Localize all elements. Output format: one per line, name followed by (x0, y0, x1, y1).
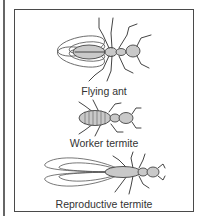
worker-termite-icon (15, 98, 193, 138)
worker-termite-figure: Worker termite (15, 98, 193, 150)
reproductive-termite-figure: Reproductive termite (15, 148, 193, 210)
reproductive-termite-icon (15, 148, 193, 198)
reproductive-termite-label: Reproductive termite (15, 198, 193, 210)
insect-comparison-panel: Flying ant Worker term (14, 9, 194, 212)
flying-ant-figure: Flying ant (15, 13, 193, 99)
side-rule (3, 0, 5, 216)
flying-ant-label: Flying ant (15, 85, 193, 97)
flying-ant-icon (15, 13, 193, 85)
